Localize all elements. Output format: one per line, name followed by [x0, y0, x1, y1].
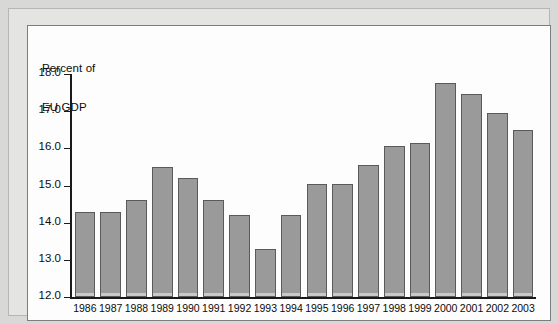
x-axis-tick-label: 1986 — [73, 302, 96, 314]
bar — [461, 94, 482, 297]
y-axis-tick-mark — [64, 186, 70, 187]
x-axis-tick-label: 1994 — [279, 302, 302, 314]
x-axis-tick-label: 2001 — [460, 302, 483, 314]
bar — [358, 165, 379, 297]
bar — [513, 130, 534, 297]
bar — [100, 212, 121, 297]
bar — [178, 178, 199, 297]
x-axis-tick-label: 1987 — [99, 302, 122, 314]
x-axis-tick-label: 1997 — [357, 302, 380, 314]
y-axis-tick-mark — [64, 111, 70, 112]
y-axis-tick-label: 16.0 — [39, 140, 61, 152]
y-axis-tick-mark — [64, 260, 70, 261]
bar — [384, 146, 405, 297]
bar — [75, 212, 96, 297]
y-axis-tick-label: 14.0 — [39, 215, 61, 227]
y-axis-tick-mark — [64, 297, 70, 298]
figure-inner-border: Percent of EU GDP 18.017.016.015.014.013… — [8, 8, 550, 316]
bar — [307, 184, 328, 297]
x-axis-tick-label: 1993 — [254, 302, 277, 314]
y-axis-tick-label: 17.0 — [39, 103, 61, 115]
y-axis-tick-label: 13.0 — [39, 252, 61, 264]
y-axis-tick-label: 15.0 — [39, 178, 61, 190]
bar — [126, 200, 147, 297]
y-axis-tick-label: 18.0 — [39, 66, 61, 78]
x-axis-tick-label: 1999 — [408, 302, 431, 314]
bar — [332, 184, 353, 297]
x-axis-tick-label: 1996 — [331, 302, 354, 314]
bar — [281, 215, 302, 297]
bar-series — [72, 74, 536, 297]
x-axis-tick-label: 1988 — [125, 302, 148, 314]
bar — [255, 249, 276, 297]
bar — [229, 215, 250, 297]
y-axis-tick-mark — [64, 148, 70, 149]
x-axis-tick-label: 1998 — [383, 302, 406, 314]
x-axis-tick-label: 1990 — [176, 302, 199, 314]
figure-frame: Percent of EU GDP 18.017.016.015.014.013… — [0, 0, 558, 324]
x-axis-tick-labels: 1986198719881989199019911992199319941995… — [70, 302, 536, 318]
y-axis-tick-label: 12.0 — [39, 289, 61, 301]
bar — [435, 83, 456, 297]
plot-area: 18.017.016.015.014.013.012.0 — [70, 74, 536, 298]
y-axis-tick-mark — [64, 74, 70, 75]
x-axis-tick-label: 2002 — [486, 302, 509, 314]
bar — [152, 167, 173, 297]
chart-panel: Percent of EU GDP 18.017.016.015.014.013… — [27, 25, 551, 321]
bar — [203, 200, 224, 297]
x-axis-tick-label: 1989 — [151, 302, 174, 314]
x-axis-tick-label: 2000 — [434, 302, 457, 314]
x-axis-tick-label: 1995 — [305, 302, 328, 314]
bar — [410, 143, 431, 297]
x-axis-tick-label: 2003 — [511, 302, 534, 314]
bar — [487, 113, 508, 297]
x-axis-tick-label: 1992 — [228, 302, 251, 314]
x-axis-line — [70, 297, 536, 299]
x-axis-tick-label: 1991 — [202, 302, 225, 314]
y-axis-tick-mark — [64, 223, 70, 224]
